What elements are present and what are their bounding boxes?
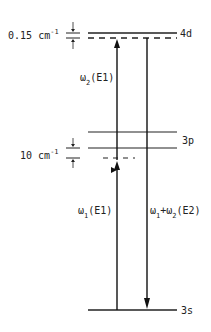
level-3s-label: 3s <box>181 305 193 316</box>
splitting-label-4d: 0.15 cm-1 <box>8 28 59 41</box>
omega2-label: ω2(E1) <box>80 72 114 87</box>
omega12-label: ω1+ω2(E2) <box>150 205 201 220</box>
omega2-arrowhead <box>114 39 120 48</box>
level-4d: 4d <box>88 28 192 39</box>
level-3p-label: 3p <box>182 135 194 146</box>
splitting-label-3p: 10 cm-1 <box>20 148 59 161</box>
energy-level-diagram: 4d 0.15 cm-1 3p 10 cm-1 3s <box>0 0 211 332</box>
splitting-marker-3p: 10 cm-1 <box>20 138 80 168</box>
splitting-marker-4d: 0.15 cm-1 <box>8 22 80 49</box>
omega1-label: ω1(E1) <box>78 205 112 220</box>
level-3p: 3p <box>88 132 194 148</box>
level-4d-label: 4d <box>180 28 192 39</box>
omega12-arrowhead <box>144 298 150 309</box>
level-3s: 3s <box>88 305 193 316</box>
omega1-arrowhead <box>114 161 120 170</box>
